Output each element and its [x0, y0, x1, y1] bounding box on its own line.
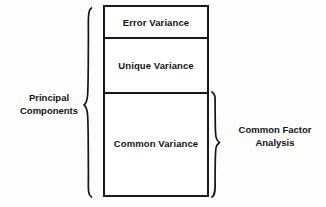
common-factor-analysis-label-line1: Common Factor [226, 124, 324, 137]
segment-common-variance-label: Common Variance [114, 138, 198, 149]
segment-unique-variance: Unique Variance [105, 39, 207, 94]
common-factor-analysis-label-line2: Analysis [226, 137, 324, 150]
segment-common-variance: Common Variance [105, 94, 207, 195]
variance-box: Error Variance Unique Variance Common Va… [103, 5, 209, 197]
right-curly-brace-icon [206, 86, 226, 207]
variance-partition-diagram: Error Variance Unique Variance Common Va… [0, 0, 326, 207]
segment-error-variance-label: Error Variance [123, 17, 189, 28]
principal-components-label: Principal Components [2, 92, 96, 117]
segment-error-variance: Error Variance [105, 7, 207, 39]
common-factor-analysis-label: Common Factor Analysis [226, 124, 324, 149]
segment-unique-variance-label: Unique Variance [118, 60, 193, 71]
principal-components-label-line2: Components [2, 105, 96, 118]
principal-components-label-line1: Principal [2, 92, 96, 105]
